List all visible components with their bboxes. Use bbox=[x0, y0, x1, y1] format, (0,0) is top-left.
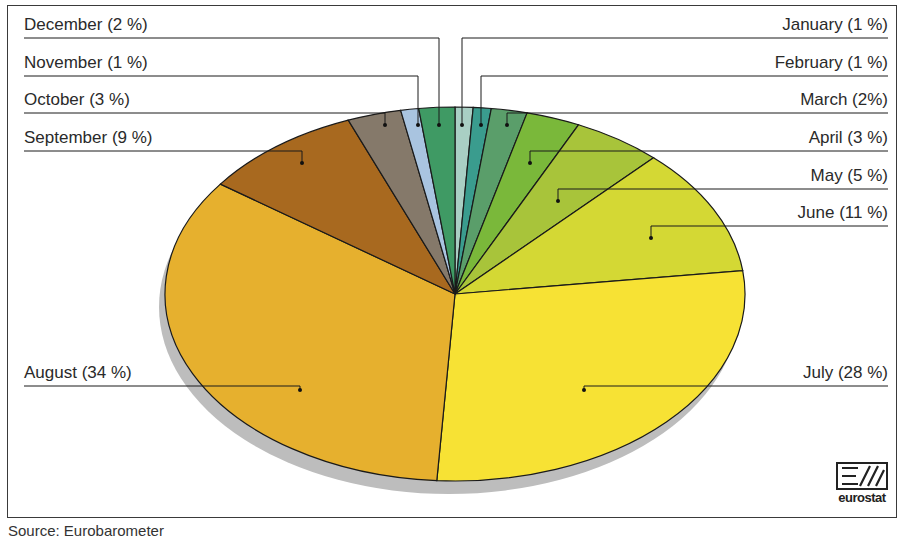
leader-dot bbox=[437, 123, 441, 127]
label-december: December (2 %) bbox=[24, 15, 148, 35]
label-may: May (5 %) bbox=[811, 166, 888, 186]
label-january: January (1 %) bbox=[782, 15, 888, 35]
logo-text: eurostat bbox=[832, 490, 892, 505]
leader-dot bbox=[649, 236, 653, 240]
source-note: Source: Eurobarometer bbox=[8, 522, 164, 539]
leader-dot bbox=[556, 199, 560, 203]
label-march: March (2%) bbox=[800, 90, 888, 110]
leader-dot bbox=[479, 123, 483, 127]
leader-line bbox=[24, 38, 439, 125]
leader-line bbox=[462, 38, 888, 125]
label-august: August (34 %) bbox=[24, 363, 132, 383]
label-november: November (1 %) bbox=[24, 53, 148, 73]
label-june: June (11 %) bbox=[798, 203, 888, 223]
pie-slice-july bbox=[437, 271, 745, 481]
leader-dot bbox=[528, 161, 532, 165]
leader-dot bbox=[300, 161, 304, 165]
label-february: February (1 %) bbox=[775, 53, 888, 73]
leader-dot bbox=[383, 123, 387, 127]
leader-dot bbox=[505, 123, 509, 127]
leader-dot bbox=[460, 123, 464, 127]
leader-line bbox=[24, 113, 385, 125]
leader-dot bbox=[416, 123, 420, 127]
leader-dot bbox=[582, 388, 586, 392]
label-september: September (9 %) bbox=[24, 128, 153, 148]
leader-dot bbox=[298, 388, 302, 392]
label-july: July (28 %) bbox=[803, 363, 888, 383]
label-april: April (3 %) bbox=[809, 128, 888, 148]
label-october: October (3 %) bbox=[24, 90, 130, 110]
